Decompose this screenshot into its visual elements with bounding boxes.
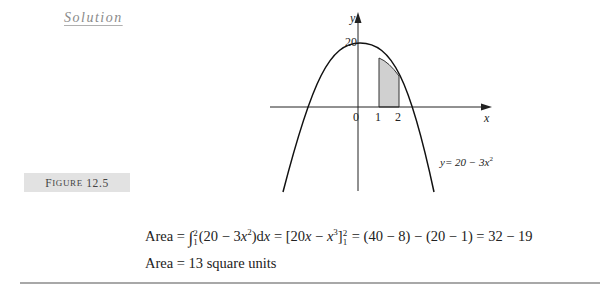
- x-tick-1: 1: [375, 110, 381, 124]
- x-axis-arrow-icon: [481, 104, 492, 111]
- area-result: Area = 13 square units: [145, 255, 276, 272]
- x-axis-label: x: [483, 111, 490, 125]
- x-tick-2: 2: [395, 110, 401, 124]
- figure-caption-label: FIGURE 12.5: [24, 173, 130, 192]
- area-integral-equation: Area = ∫21(20 − 3x2)dx = [20x − x3]21 = …: [145, 226, 533, 247]
- y-axis-label: y: [349, 11, 356, 25]
- curve-equation-label: y= 20 − 3x2: [439, 155, 493, 168]
- integral-sign: ∫: [189, 228, 194, 248]
- shaded-area: [379, 58, 399, 107]
- x-tick-0: 0: [353, 110, 359, 124]
- section-divider: [20, 282, 600, 284]
- y-axis-arrow-icon: [355, 12, 362, 23]
- y-tick-20: 20: [345, 35, 357, 49]
